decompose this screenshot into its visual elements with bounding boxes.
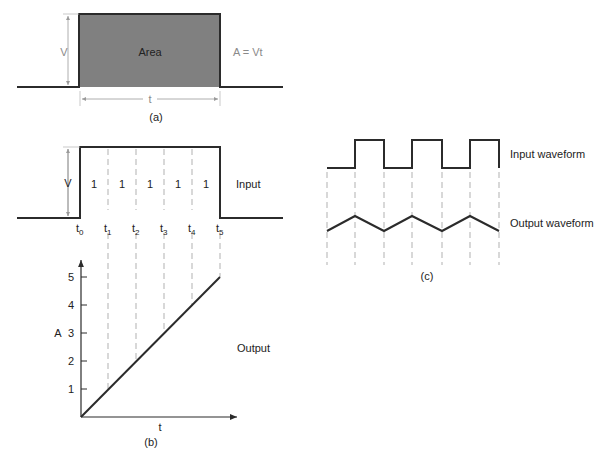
panel-b: V 1 1 1 1 1 Input t0 t1 t2 t3 t4 t5: [17, 147, 283, 448]
time-label-t5: t5: [216, 222, 224, 237]
output-triangle-wave: [327, 216, 499, 231]
caption-a: (a): [149, 111, 162, 123]
caption-c: (c): [421, 270, 434, 282]
y-axis-label: A: [54, 327, 62, 339]
y-tick-label: 4: [68, 299, 74, 311]
time-label-t4: t4: [188, 222, 196, 237]
segment-value: 1: [147, 178, 153, 190]
waveform-diagram: V Area A = Vt t (a) V 1 1 1: [0, 0, 600, 462]
time-label-t1: t1: [104, 222, 112, 237]
y-tick-label: 1: [68, 383, 74, 395]
y-tick-label: 3: [68, 327, 74, 339]
segment-value: 1: [175, 178, 181, 190]
input-square-wave: [327, 140, 499, 168]
caption-b: (b): [144, 436, 157, 448]
y-tick-label: 5: [68, 271, 74, 283]
y-ticks: [81, 277, 87, 389]
x-axis-label: t: [158, 421, 161, 433]
output-label: Output: [237, 342, 270, 354]
area-label: Area: [138, 46, 162, 58]
time-label-t2: t2: [132, 222, 140, 237]
v-label-b: V: [64, 177, 72, 189]
segment-value: 1: [203, 178, 209, 190]
y-tick-label: 2: [68, 355, 74, 367]
input-waveform-label: Input waveform: [510, 148, 585, 160]
segment-value: 1: [119, 178, 125, 190]
panel-a: V Area A = Vt t (a): [17, 14, 283, 123]
output-ramp: [81, 277, 220, 417]
v-label-a: V: [60, 46, 68, 58]
equation-label: A = Vt: [233, 46, 263, 58]
t-label-a: t: [148, 93, 151, 105]
output-waveform-label: Output waveform: [510, 217, 594, 229]
time-label-t0: t0: [76, 222, 84, 237]
segment-value: 1: [91, 178, 97, 190]
panel-c: Input waveform Output waveform (c): [327, 140, 594, 282]
input-label: Input: [236, 178, 260, 190]
time-label-t3: t3: [160, 222, 168, 237]
